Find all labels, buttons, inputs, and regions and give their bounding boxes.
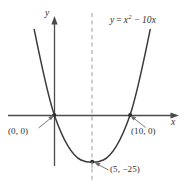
x-axis-label: x — [171, 118, 175, 128]
equation-term: 10x — [142, 15, 156, 25]
equation-relation: = — [116, 15, 121, 25]
y-axis-label: y — [45, 9, 49, 19]
equation-operator: − — [134, 15, 139, 25]
leader-line-vertex — [98, 165, 109, 171]
equation-exponent: 2 — [128, 13, 131, 20]
equation-lhs: y — [110, 15, 114, 25]
leader-arrowhead-vertex — [95, 163, 101, 167]
leader-line-root-left — [39, 118, 52, 129]
label-root-left: (0, 0) — [8, 127, 28, 136]
y-axis-arrowhead — [51, 16, 57, 25]
label-vertex: (5, −25) — [110, 165, 140, 174]
parabola-figure: y x y=x2−10x (0, 0) (10, 0) (5, −25) — [0, 0, 184, 188]
label-root-right: (10, 0) — [131, 127, 156, 136]
graph-canvas — [0, 0, 184, 188]
equation-label: y=x2−10x — [110, 16, 156, 26]
